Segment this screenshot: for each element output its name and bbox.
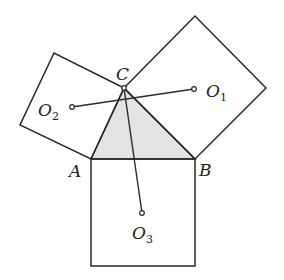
label-a: A — [67, 161, 81, 181]
point-o1 — [192, 87, 197, 92]
geometry-diagram: C A B O1 O2 O3 — [0, 0, 284, 280]
label-o1: O1 — [206, 81, 227, 104]
label-o3: O3 — [132, 223, 153, 246]
label-o2: O2 — [38, 100, 59, 123]
point-o2 — [70, 105, 75, 110]
point-o3 — [140, 211, 145, 216]
label-b: B — [198, 160, 212, 180]
triangle-abc — [91, 88, 195, 159]
label-c: C — [116, 64, 129, 84]
point-c — [122, 86, 127, 91]
